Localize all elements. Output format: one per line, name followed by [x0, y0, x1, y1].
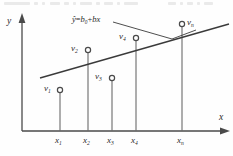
y-axis-label: y [7, 17, 11, 27]
x-tick-x2-subscript: 2 [87, 140, 90, 146]
x-tick-x3-subscript: 3 [111, 140, 114, 146]
figure-canvas [0, 0, 233, 156]
x-axis [22, 128, 230, 135]
x-axis-label: x [219, 113, 223, 123]
x-tick-x4-subscript: 4 [135, 140, 138, 146]
regression-scatter-figure: y x ŷ=b0+bx v1 v2 v3 v4 vn x1 x2 x3 x4 x… [0, 0, 233, 156]
point-label-v2: v2 [71, 44, 78, 53]
point-label-vn-subscript: n [191, 22, 194, 28]
x-tick-xn-subscript: n [181, 140, 184, 146]
x-tick-label-x4: x4 [131, 136, 138, 145]
marker-v4 [133, 35, 138, 40]
point-label-v3-subscript: 3 [99, 76, 102, 82]
x-tick-label-x2: x2 [83, 136, 90, 145]
x-tick-label-xn: xn [177, 136, 184, 145]
marker-v3 [109, 75, 114, 80]
marker-vn [179, 21, 184, 26]
x-tick-x1-subscript: 1 [59, 140, 62, 146]
x-tick-label-x1: x1 [55, 136, 62, 145]
point-label-v4-subscript: 4 [123, 36, 126, 42]
marker-v2 [85, 47, 90, 52]
point-label-v4: v4 [119, 32, 126, 41]
regression-line [40, 24, 229, 78]
equation-variable: x [97, 14, 101, 24]
marker-v1 [57, 87, 62, 92]
x-tick-label-x3: x3 [107, 136, 114, 145]
point-label-v1-subscript: 1 [48, 88, 51, 94]
point-label-vn: vn [187, 18, 194, 27]
regression-equation-label: ŷ=b0+bx [72, 15, 100, 24]
point-label-v1: v1 [44, 84, 51, 93]
point-label-v3: v3 [95, 72, 102, 81]
point-label-v2-subscript: 2 [75, 48, 78, 54]
y-axis [19, 13, 26, 131]
